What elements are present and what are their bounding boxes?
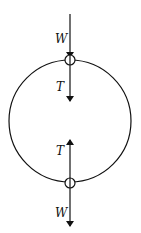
vertical-circle-diagram: W T T W [0,0,141,233]
bottom-tension-label: T [56,144,65,158]
top-tension-label: T [56,80,65,94]
bottom-weight-label: W [55,206,69,220]
top-weight-label: W [55,32,69,46]
